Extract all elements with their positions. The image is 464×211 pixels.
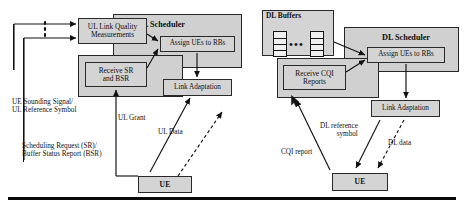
ul-receive-sr-bsr-label: Receive SR and BSR	[99, 67, 134, 83]
diagram-canvas: UL Scheduler UL Link Quality Measurement…	[0, 0, 464, 211]
ul-receive-sr-bsr-box[interactable]: Receive SR and BSR	[85, 62, 147, 87]
dl-buffer-ellipsis: •••	[289, 39, 304, 50]
dl-ue-box[interactable]: UE	[332, 173, 388, 191]
ul-assign-ues-box[interactable]: Assign UEs to RBs	[160, 36, 235, 52]
ul-link-adaptation-box[interactable]: Link Adaptation	[163, 79, 232, 96]
arrow-ul-data	[178, 112, 222, 176]
dl-scheduler-title: DL Scheduler	[382, 33, 430, 42]
ue-sounding-signal-label: UE Sounding Signal/ UL Reference Symbol	[12, 98, 76, 115]
dl-buffer-column-right	[310, 31, 324, 57]
dl-receive-cqi-label: Receive CQI Reports	[295, 70, 333, 86]
bottom-divider	[8, 197, 456, 200]
dl-buffer-column-left	[273, 31, 287, 57]
ul-data-label: UL Data	[158, 128, 183, 136]
dl-assign-ues-box[interactable]: Assign UEs to RBs	[367, 47, 445, 63]
dl-link-adaptation-box[interactable]: Link Adaptation	[371, 100, 440, 117]
dl-data-label: DL data	[388, 139, 411, 147]
cqi-report-label: CQI report	[281, 148, 312, 156]
left-bus-vertical-inner	[23, 38, 24, 162]
dl-link-adaptation-label: Link Adaptation	[382, 105, 429, 113]
scheduling-request-label: Scheduling Request (SR)/ Buffer Status R…	[22, 142, 102, 159]
ul-link-quality-box[interactable]: UL Link Quality Measurements	[78, 18, 147, 44]
ul-ue-box[interactable]: UE	[138, 176, 192, 193]
dl-buffer-graphics: •••	[262, 10, 334, 56]
dl-assign-ues-label: Assign UEs to RBs	[378, 51, 434, 59]
mouse-cursor	[291, 95, 300, 108]
ul-assign-ues-label: Assign UEs to RBs	[170, 40, 226, 48]
left-bus-horizontal	[13, 69, 14, 70]
ul-link-adaptation-label: Link Adaptation	[174, 84, 221, 92]
left-bus-vertical-outer	[13, 24, 14, 70]
dl-ue-label: UE	[354, 178, 365, 186]
dl-receive-cqi-box[interactable]: Receive CQI Reports	[283, 65, 346, 90]
ul-ue-label: UE	[159, 181, 170, 189]
dl-reference-symbol-label: DL reference symbol	[320, 122, 358, 139]
ul-grant-label: UL Grant	[118, 114, 145, 122]
ul-link-quality-label: UL Link Quality Measurements	[88, 23, 137, 39]
arrow-dl-reference	[356, 120, 380, 168]
